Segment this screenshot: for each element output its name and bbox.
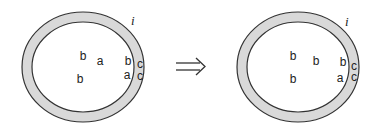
boundary-object-a: a (124, 68, 131, 82)
left-region-label: i (131, 13, 135, 28)
interior-object-a: a (97, 54, 104, 68)
boundary-object-c: c (137, 69, 143, 83)
left-membrane: i babbcac (22, 12, 144, 122)
membrane-rule-diagram: i babbcac i bbbbcac (0, 0, 380, 132)
transition-arrow-icon (176, 58, 205, 75)
interior-object-b: b (290, 72, 297, 86)
interior-object-b: b (80, 49, 87, 63)
right-membrane-inner (247, 22, 349, 112)
left-membrane-inner (32, 22, 134, 112)
interior-object-b: b (313, 54, 320, 68)
interior-object-b: b (290, 49, 297, 63)
right-region-label: i (345, 14, 349, 29)
boundary-object-c: c (351, 70, 357, 84)
diagram-canvas: i babbcac i bbbbcac (0, 0, 380, 132)
boundary-object-b: b (340, 55, 347, 69)
right-membrane: i bbbbcac (237, 12, 359, 122)
boundary-object-a: a (337, 71, 344, 85)
interior-object-b: b (77, 72, 84, 86)
boundary-object-b: b (125, 54, 132, 68)
